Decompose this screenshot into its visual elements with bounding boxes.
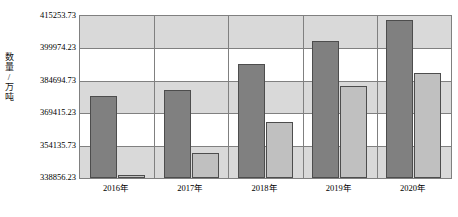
x-axis-tick-labels: 2016年2017年2018年2019年2020年 <box>79 181 452 199</box>
bar-2018年-series1 <box>238 64 265 178</box>
bar-2019年-series1 <box>312 41 339 178</box>
x-axis-tick-label: 2019年 <box>326 181 352 193</box>
bar-2017年-series2 <box>192 153 219 178</box>
bar-2018年-series2 <box>266 122 293 178</box>
y-axis-tick-label: 415253.73 <box>40 11 76 20</box>
bar-2020年-series1 <box>386 20 413 178</box>
y-axis-tick-label: 399974.23 <box>40 43 76 52</box>
x-axis-tick-label: 2016年 <box>103 181 129 193</box>
bar-2017年-series1 <box>164 90 191 178</box>
plot-area <box>79 15 452 179</box>
y-axis-tick-label: 369415.23 <box>40 108 76 117</box>
bar-series-container <box>80 16 451 178</box>
bar-chart: 数量/万吨 415253.73399974.23384694.73369415.… <box>0 0 458 217</box>
y-axis-tick-label: 338856.23 <box>40 173 76 182</box>
bar-2016年-series1 <box>90 96 117 178</box>
y-axis-tick-label: 354135.73 <box>40 140 76 149</box>
x-axis-tick-label: 2020年 <box>400 181 426 193</box>
x-axis-tick-label: 2018年 <box>252 181 278 193</box>
y-axis-tick-labels: 415253.73399974.23384694.73369415.233541… <box>14 0 78 217</box>
y-axis-tick-label: 384694.73 <box>40 75 76 84</box>
bar-2016年-series2 <box>118 175 145 178</box>
bar-2020年-series2 <box>414 73 441 178</box>
bar-2019年-series2 <box>340 86 367 178</box>
x-axis-tick-label: 2017年 <box>177 181 203 193</box>
